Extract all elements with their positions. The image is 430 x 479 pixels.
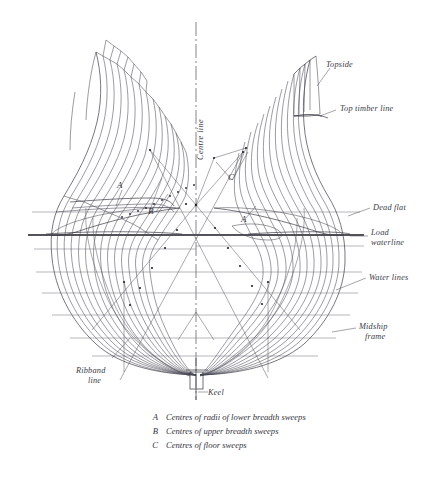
legend: A Centres of radii of lower breadth swee… xyxy=(0,412,430,455)
topside-label: Topside xyxy=(326,60,353,70)
marker-b-left: B xyxy=(148,206,154,216)
marker-c-right: C xyxy=(228,172,234,182)
legend-item-c: C Centres of floor sweeps xyxy=(136,440,430,451)
legend-item-b: B Centres of upper breadth sweeps xyxy=(136,426,430,437)
ribband-line-label-line2: line xyxy=(88,376,101,386)
dead-flat-label: Dead flat xyxy=(373,203,406,213)
ribband-line-label-line1: Ribband xyxy=(76,366,106,376)
midship-frame-label-line1: Midship xyxy=(359,322,388,332)
load-waterline-label-line1: Load xyxy=(371,228,389,238)
legend-item-a: A Centres of radii of lower breadth swee… xyxy=(136,412,430,423)
legend-key-a: A xyxy=(136,412,166,422)
midship-frame-label-line2: frame xyxy=(365,332,385,342)
legend-inner: A Centres of radii of lower breadth swee… xyxy=(0,412,430,452)
marker-a-left: A xyxy=(117,180,123,190)
centre-line-label: Centre line xyxy=(196,119,205,160)
legend-text-a: Centres of radii of lower breadth sweeps xyxy=(166,412,356,423)
keel-label: Keel xyxy=(208,388,224,398)
figure-canvas: .h{fill:none;stroke:#4a4a56;stroke-width… xyxy=(0,0,430,479)
fore-body-sections xyxy=(200,56,345,375)
leader-lines xyxy=(112,68,370,392)
legend-key-b: B xyxy=(136,426,166,436)
ship-body-plan-drawing: .h{fill:none;stroke:#4a4a56;stroke-width… xyxy=(0,0,430,479)
legend-text-b: Centres of upper breadth sweeps xyxy=(166,426,356,437)
water-lines-label: Water lines xyxy=(369,273,408,283)
legend-key-c: C xyxy=(136,440,166,450)
legend-text-c: Centres of floor sweeps xyxy=(166,440,356,451)
marker-a-right: A xyxy=(241,214,247,224)
keel-group xyxy=(186,358,208,400)
load-waterline-label-line2: waterline xyxy=(371,238,404,248)
top-timber-line-label: Top timber line xyxy=(340,104,393,114)
